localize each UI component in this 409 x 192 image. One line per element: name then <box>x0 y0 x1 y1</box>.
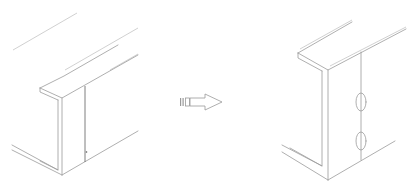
arrow-tail-bar-2 <box>183 98 184 106</box>
web-inner-edge <box>40 100 58 170</box>
top-flange-thickness <box>40 88 58 100</box>
web-bottom-edge <box>328 141 395 180</box>
diagram-canvas <box>0 0 409 192</box>
top-edge-far-line <box>300 20 352 49</box>
top-edge-far-line-2 <box>330 27 406 66</box>
figure-after <box>282 20 406 180</box>
arrow-tail-box <box>186 98 190 106</box>
bottom-flange-inner-edge <box>12 145 58 170</box>
figure-before <box>12 13 138 175</box>
background-line <box>13 13 77 50</box>
web-bottom-edge <box>62 131 138 175</box>
arrow-tail-bar-1 <box>180 98 181 106</box>
transform-arrow <box>180 94 222 110</box>
top-flange-back-edge <box>298 22 352 53</box>
top-edge-far-line <box>65 28 138 70</box>
hollow-arrow-right-icon <box>190 94 222 110</box>
top-flange-back-edge <box>40 45 118 88</box>
top-flange-thickness <box>298 53 322 71</box>
small-mark <box>86 151 88 153</box>
top-edge-far-line-2 <box>110 54 138 70</box>
bottom-flange-outer-edge <box>12 150 62 175</box>
